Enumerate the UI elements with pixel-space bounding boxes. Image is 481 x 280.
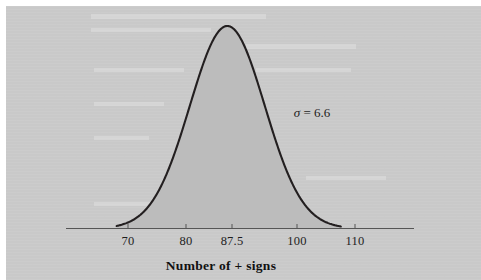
distribution-shaded-area	[117, 26, 341, 229]
x-axis-title: Number of + signs	[166, 258, 276, 274]
curve-fill-group	[117, 26, 341, 229]
x-tick-label-80: 80	[180, 234, 193, 249]
x-tick-label-87.5: 87.5	[221, 234, 244, 249]
x-tick-label-70: 70	[122, 234, 135, 249]
plot-area: 708087.5100110 σ = 6.6 Number of + signs	[0, 0, 481, 280]
x-tick-label-100: 100	[287, 234, 306, 249]
sigma-equals: =	[300, 105, 314, 120]
sigma-value: 6.6	[314, 105, 330, 120]
normal-curve-figure: 708087.5100110 σ = 6.6 Number of + signs	[0, 0, 481, 280]
sigma-annotation: σ = 6.6	[294, 105, 331, 121]
x-tick-label-110: 110	[346, 234, 365, 249]
